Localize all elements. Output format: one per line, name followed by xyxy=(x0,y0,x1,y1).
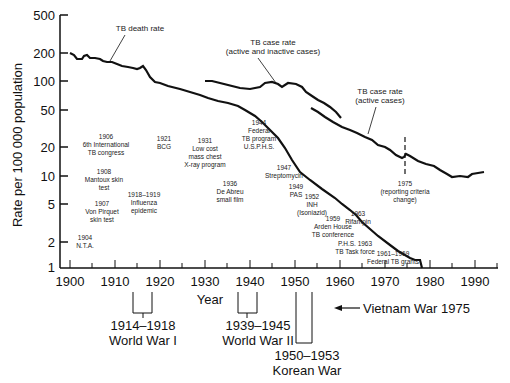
svg-text:Rifampin: Rifampin xyxy=(345,218,371,226)
svg-text:500: 500 xyxy=(33,8,55,23)
x-tick-labels: 1900 1910 1920 1930 1940 1950 1960 1970 … xyxy=(56,274,490,289)
svg-text:1906: 1906 xyxy=(99,133,114,140)
svg-text:test: test xyxy=(99,184,110,191)
svg-text:P.H.S. 1963: P.H.S. 1963 xyxy=(338,240,373,247)
svg-text:1900: 1900 xyxy=(56,274,85,289)
svg-text:1904: 1904 xyxy=(78,234,93,241)
label-case-rate-all-2: (active and inactive cases) xyxy=(226,47,321,56)
vietnam-arrow-icon xyxy=(334,305,360,311)
svg-text:1936: 1936 xyxy=(223,180,238,187)
event-annotations: 1904 N.T.A. 1906 6th International TB co… xyxy=(76,119,430,266)
svg-text:10: 10 xyxy=(41,169,55,184)
svg-text:change): change) xyxy=(393,196,417,204)
svg-text:Mantoux skin: Mantoux skin xyxy=(85,176,124,183)
svg-text:N.T.A.: N.T.A. xyxy=(76,242,94,249)
svg-text:Federal: Federal xyxy=(248,127,271,134)
svg-text:X-ray program: X-ray program xyxy=(184,161,226,169)
svg-text:1910: 1910 xyxy=(101,274,130,289)
series-case-rate-active xyxy=(311,108,484,177)
label-case-rate-active-1: TB case rate xyxy=(357,87,403,96)
svg-text:1952: 1952 xyxy=(305,193,320,200)
x-axis-label: Year xyxy=(197,292,224,307)
svg-text:1930: 1930 xyxy=(191,274,220,289)
svg-text:skin test: skin test xyxy=(90,216,114,223)
svg-text:(reporting criteria: (reporting criteria xyxy=(380,188,430,196)
svg-text:PAS: PAS xyxy=(290,191,303,198)
y-axis-label: Rate per 100 000 population xyxy=(10,63,25,227)
label-case-rate-all-1: TB case rate xyxy=(250,38,296,47)
svg-text:1918–1919: 1918–1919 xyxy=(128,191,161,198)
svg-text:Federal TB grants: Federal TB grants xyxy=(367,258,420,266)
svg-text:TB congress: TB congress xyxy=(88,149,125,157)
y-tick-labels: 500 200 100 50 20 10 5 2 1 xyxy=(33,8,55,275)
svg-text:U.S.P.H.S.: U.S.P.H.S. xyxy=(244,143,275,150)
svg-text:100: 100 xyxy=(33,74,55,89)
svg-text:small film: small film xyxy=(216,196,243,203)
vietnam-label: Vietnam War 1975 xyxy=(363,301,470,316)
svg-text:1907: 1907 xyxy=(95,200,110,207)
svg-text:TB program: TB program xyxy=(242,135,276,143)
svg-text:epidemic: epidemic xyxy=(131,207,158,215)
svg-text:1975: 1975 xyxy=(398,180,413,187)
svg-text:1947: 1947 xyxy=(277,164,292,171)
svg-text:Von Pirquet: Von Pirquet xyxy=(85,208,119,216)
ww1-name: World War I xyxy=(109,333,177,348)
svg-text:1980: 1980 xyxy=(416,274,445,289)
svg-text:2: 2 xyxy=(48,235,55,250)
tb-chart: 500 200 100 50 20 10 5 2 1 1900 1910 192… xyxy=(0,0,510,383)
svg-text:1963: 1963 xyxy=(351,210,366,217)
ww1-range: 1914–1918 xyxy=(110,318,175,333)
ww2-range: 1939–1945 xyxy=(225,318,290,333)
svg-text:(Isoniazid): (Isoniazid) xyxy=(297,209,327,217)
svg-text:Low cost: Low cost xyxy=(192,145,218,152)
svg-text:1: 1 xyxy=(48,260,55,275)
svg-text:1944: 1944 xyxy=(252,119,267,126)
x-ticks xyxy=(70,260,497,268)
svg-text:Streptomycin: Streptomycin xyxy=(265,172,303,180)
svg-text:1950: 1950 xyxy=(281,274,310,289)
svg-text:1990: 1990 xyxy=(461,274,490,289)
korean-name: Korean War xyxy=(273,363,343,378)
svg-text:INH: INH xyxy=(306,201,318,208)
ww2-name: World War II xyxy=(222,333,294,348)
svg-text:1960: 1960 xyxy=(326,274,355,289)
label-case-rate-active-2: (active cases) xyxy=(355,96,405,105)
svg-text:De Abreu: De Abreu xyxy=(216,188,243,195)
svg-text:1970: 1970 xyxy=(371,274,400,289)
svg-text:200: 200 xyxy=(33,46,55,61)
svg-text:1959: 1959 xyxy=(326,215,341,222)
svg-text:BCG: BCG xyxy=(157,143,171,150)
svg-text:50: 50 xyxy=(41,103,55,118)
svg-text:1931: 1931 xyxy=(198,137,213,144)
svg-text:6th International: 6th International xyxy=(83,141,130,148)
label-death-rate: TB death rate xyxy=(116,24,165,33)
svg-text:1921: 1921 xyxy=(157,135,172,142)
svg-text:20: 20 xyxy=(41,140,55,155)
svg-text:1920: 1920 xyxy=(146,274,175,289)
svg-text:Influenza: Influenza xyxy=(131,199,158,206)
svg-text:mass chest: mass chest xyxy=(189,153,222,160)
series-case-rate-all xyxy=(205,81,341,118)
svg-text:TB Task force: TB Task force xyxy=(335,248,375,255)
svg-text:5: 5 xyxy=(48,197,55,212)
series-death-rate xyxy=(70,53,422,268)
svg-text:1908: 1908 xyxy=(97,168,112,175)
svg-text:1949: 1949 xyxy=(289,183,304,190)
svg-text:TB conference: TB conference xyxy=(312,231,355,238)
svg-text:1961–1969: 1961–1969 xyxy=(377,250,410,257)
svg-text:1940: 1940 xyxy=(236,274,265,289)
korean-range: 1950–1953 xyxy=(274,348,339,363)
